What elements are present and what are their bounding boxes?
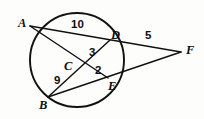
measure-label-cd: 3 (89, 47, 95, 59)
geometry-figure: A B C D E F 10 5 3 2 9 (0, 0, 204, 119)
geometry-canvas (0, 0, 204, 119)
measure-label-df: 5 (145, 30, 151, 42)
secant-a-to-f (30, 26, 181, 52)
point-label-a: A (18, 17, 26, 30)
point-label-d: D (111, 29, 120, 42)
point-label-c: C (64, 60, 72, 73)
measure-label-ce: 2 (95, 65, 101, 77)
point-label-b: B (39, 99, 47, 112)
measure-label-bc: 9 (54, 75, 60, 87)
measure-label-ad: 10 (71, 19, 84, 31)
point-label-f: F (186, 44, 194, 57)
point-label-e: E (108, 80, 116, 93)
